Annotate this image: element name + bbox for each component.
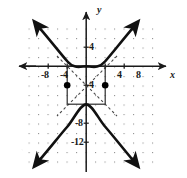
x-tick-label--4: -4 <box>60 70 68 80</box>
y-tick-label--4: -4 <box>86 80 94 90</box>
y-axis-label: y <box>97 5 101 15</box>
x-tick-label--8: -8 <box>41 70 49 80</box>
x-tick-label-4: 4 <box>117 70 122 80</box>
hyperbola-figure: -8 -4 4 8 4 -4 -8 -12 y x <box>0 0 187 178</box>
y-tick-label--8: -8 <box>75 118 83 128</box>
y-tick-label--12: -12 <box>71 137 83 147</box>
x-axis-label: x <box>170 70 175 80</box>
x-tick-label-8: 8 <box>136 70 141 80</box>
y-tick-label-4: 4 <box>89 42 94 52</box>
